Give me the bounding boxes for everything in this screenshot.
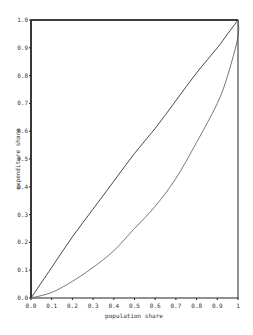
y-tick-label: 0.0 xyxy=(17,294,28,301)
y-tick-label: 0.2 xyxy=(17,238,28,245)
x-tick-label: 0.9 xyxy=(212,302,223,309)
x-tick-label: 0.6 xyxy=(150,302,161,309)
series-lines xyxy=(31,20,239,298)
y-tick-label: 1.0 xyxy=(17,16,28,23)
x-tick-label: 1 xyxy=(236,302,240,309)
y-tick-label: 0.8 xyxy=(17,72,28,79)
x-tick-label: 0.4 xyxy=(108,302,119,309)
x-tick-label: 0.0 xyxy=(26,302,37,309)
x-axis-ticks: 0.00.10.20.30.40.50.60.70.80.91 xyxy=(26,298,241,309)
x-tick-label: 0.3 xyxy=(88,302,99,309)
y-tick-label: 0.9 xyxy=(17,44,28,51)
x-tick-label: 0.8 xyxy=(191,302,202,309)
x-axis-label: population share xyxy=(105,312,163,320)
y-tick-label: 0.7 xyxy=(17,99,28,106)
upper-curve-line xyxy=(31,20,238,298)
lower-curve-line xyxy=(31,20,239,298)
plot-frame xyxy=(31,20,238,298)
lorenz-chart: 0.00.10.20.30.40.50.60.70.80.91.0 0.00.1… xyxy=(0,0,253,335)
y-tick-label: 0.1 xyxy=(17,266,28,273)
x-tick-label: 0.2 xyxy=(67,302,78,309)
x-tick-label: 0.5 xyxy=(129,302,140,309)
x-tick-label: 0.1 xyxy=(46,302,57,309)
y-axis-label: expenditure share xyxy=(14,128,22,190)
y-tick-label: 0.3 xyxy=(17,211,28,218)
x-tick-label: 0.7 xyxy=(170,302,181,309)
